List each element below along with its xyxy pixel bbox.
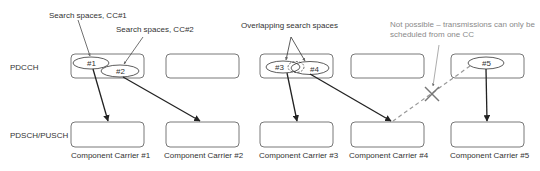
pdsch-pusch-row-label: PDSCH/PUSCH (10, 131, 68, 140)
arrow-ss4-to-cc4 (310, 74, 391, 121)
search-space-4-label: #4 (310, 65, 319, 74)
pdsch-boxes (71, 122, 524, 147)
annotation-search-cc2: Search spaces, CC#2 (116, 25, 194, 34)
annotation-not-possible-line2: scheduled from one CC (390, 30, 474, 39)
pdsch-box-cc2 (166, 122, 239, 147)
pdsch-box-cc3 (260, 122, 333, 147)
search-space-1-label: #1 (87, 59, 96, 68)
arrow-ss2-to-cc2 (123, 77, 200, 121)
annotation-search-cc1: Search spaces, CC#1 (49, 11, 127, 20)
pdcch-box-cc2 (166, 54, 239, 78)
search-space-3-label: #3 (275, 63, 284, 72)
search-space-5-label: #5 (482, 59, 491, 68)
pdsch-box-cc1 (71, 122, 144, 147)
pdcch-box-cc4 (351, 54, 424, 78)
pdsch-box-cc5 (451, 122, 524, 147)
pdcch-row-label: PDCCH (10, 63, 39, 72)
pdcch-box-cc3 (260, 54, 333, 78)
pdsch-box-cc4 (351, 122, 424, 147)
carrier-label-2: Component Carrier #2 (164, 151, 244, 160)
carrier-label-5: Component Carrier #5 (450, 151, 530, 160)
annotation-overlapping: Overlapping search spaces (241, 21, 338, 30)
carrier-label-4: Component Carrier #4 (349, 151, 429, 160)
arrow-ss3-to-cc3 (287, 73, 297, 121)
annotation-not-possible-line1: Not possible – transmissions can only be (390, 20, 536, 29)
carrier-aggregation-diagram: PDCCH PDSCH/PUSCH #1 #2 #3 #4 #5 Compone… (0, 0, 540, 171)
carrier-label-3: Component Carrier #3 (259, 151, 339, 160)
cross-mark-icon (425, 87, 439, 101)
carrier-label-1: Component Carrier #1 (71, 151, 151, 160)
search-space-2-label: #2 (116, 67, 125, 76)
pdcch-boxes (71, 54, 524, 78)
